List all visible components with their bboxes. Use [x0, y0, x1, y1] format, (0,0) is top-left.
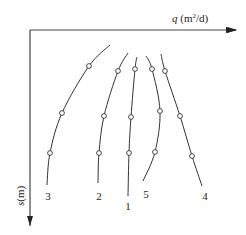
data-point-marker-icon [87, 64, 92, 69]
curve-line [161, 54, 202, 186]
data-point-marker-icon [48, 151, 53, 156]
curve-line [143, 56, 160, 181]
curve-1: 1 [125, 57, 137, 212]
curve-5: 5 [143, 56, 162, 200]
data-point-marker-icon [150, 67, 155, 72]
data-point-marker-icon [133, 67, 138, 72]
diagram-svg: q (m2/d) s(m) 32154 [0, 0, 246, 235]
curve-line [128, 57, 137, 196]
curve-label: 1 [125, 200, 131, 212]
curve-3: 3 [45, 45, 110, 202]
curve-label: 2 [96, 190, 102, 202]
curve-label: 4 [202, 190, 208, 202]
data-point-marker-icon [163, 69, 168, 74]
y-axis-arrow-icon [27, 216, 33, 226]
x-axis-arrow-icon [226, 27, 237, 33]
y-axis-label: s(m) [14, 185, 27, 206]
curves-group: 32154 [45, 45, 208, 212]
curve-label: 5 [143, 188, 149, 200]
data-point-marker-icon [153, 150, 158, 155]
data-point-marker-icon [158, 109, 163, 114]
data-point-marker-icon [116, 69, 121, 74]
curve-2: 2 [96, 53, 128, 202]
curve-label: 3 [45, 190, 51, 202]
data-point-marker-icon [60, 111, 65, 116]
data-point-marker-icon [127, 151, 132, 156]
diagram-canvas: q (m2/d) s(m) 32154 [0, 0, 246, 235]
data-point-marker-icon [102, 114, 107, 119]
curve-line [47, 45, 110, 185]
data-point-marker-icon [97, 151, 102, 156]
data-point-marker-icon [178, 114, 183, 119]
curve-4: 4 [161, 54, 208, 202]
x-axis-label: q (m2/d) [172, 12, 209, 25]
data-point-marker-icon [190, 154, 195, 159]
data-point-marker-icon [129, 115, 134, 120]
